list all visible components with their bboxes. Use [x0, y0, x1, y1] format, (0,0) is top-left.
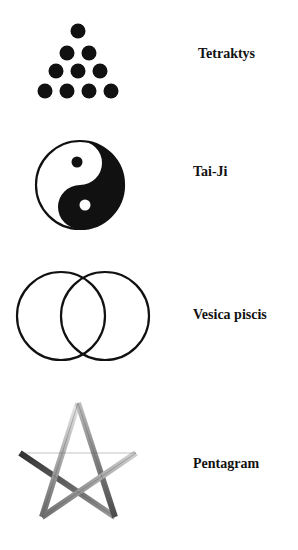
taiji-figure: [30, 135, 130, 235]
vesica-figure: [10, 265, 160, 365]
taiji-label: Tai-Ji: [193, 164, 228, 180]
tetraktys-icon: [30, 15, 130, 110]
vesica-piscis-icon: [10, 265, 160, 365]
pentagram-icon: [15, 395, 145, 520]
tetraktys-label: Tetraktys: [198, 46, 255, 62]
pentagram-label: Pentagram: [193, 456, 259, 472]
tetraktys-figure: [30, 15, 130, 110]
vesica-label: Vesica piscis: [193, 307, 267, 323]
yin-yang-icon: [30, 135, 130, 235]
pentagram-figure: [15, 395, 145, 520]
